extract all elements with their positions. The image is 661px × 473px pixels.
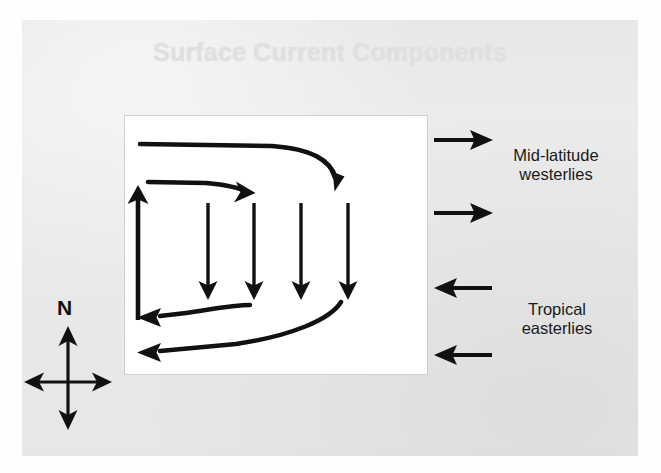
label-mid-latitude-westerlies: Mid-latitude westerlies (470, 146, 642, 184)
compass-north-south-axis (59, 326, 78, 430)
label-easterlies-line1: Tropical (478, 300, 636, 319)
label-tropical-easterlies: Tropical easterlies (478, 300, 636, 338)
label-easterlies-line2: easterlies (478, 319, 636, 338)
compass-north-label: N (57, 296, 72, 320)
compass-rose (0, 0, 661, 473)
label-westerlies-line1: Mid-latitude (470, 146, 642, 165)
label-westerlies-line2: westerlies (470, 165, 642, 184)
